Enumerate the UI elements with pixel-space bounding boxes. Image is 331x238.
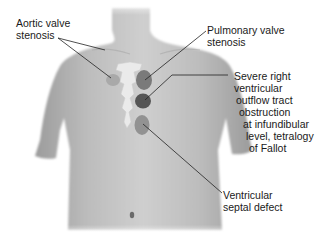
label-line: ventricular xyxy=(234,82,314,94)
label-ventricular-septal-defect: Ventricular septal defect xyxy=(223,189,283,213)
label-line: obstruction xyxy=(239,106,314,118)
label-line: septal defect xyxy=(223,201,283,213)
label-line: Severe right xyxy=(234,70,314,82)
label-line: of Fallot xyxy=(249,142,314,154)
label-line: Pulmonary valve xyxy=(207,24,285,36)
label-line: outflow tract xyxy=(236,94,314,106)
label-line: Aortic valve xyxy=(16,17,70,29)
label-line: stenosis xyxy=(207,36,285,48)
label-pulmonary-valve-stenosis: Pulmonary valve stenosis xyxy=(207,24,285,48)
pulmonary-valve-marker xyxy=(136,70,152,90)
vsd-marker xyxy=(135,115,150,135)
label-line: stenosis xyxy=(16,29,70,41)
label-aortic-valve-stenosis: Aortic valve stenosis xyxy=(16,17,70,41)
navel xyxy=(130,212,134,218)
label-rvot-obstruction: Severe right ventricular outflow tract o… xyxy=(234,70,314,154)
label-line: Ventricular xyxy=(223,189,283,201)
diagram-canvas: Aortic valve stenosis Pulmonary valve st… xyxy=(0,0,331,238)
label-line: level, tetralogy xyxy=(246,130,314,142)
label-line: at infundibular xyxy=(243,118,314,130)
rvot-obstruction-marker xyxy=(135,94,151,109)
